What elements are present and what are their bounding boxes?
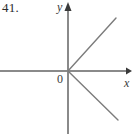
coordinate-plot [0, 0, 134, 137]
origin-label: 0 [57, 73, 63, 85]
x-axis-arrowhead-icon [126, 68, 132, 75]
ray-lower [68, 71, 118, 120]
y-axis-label: y [57, 1, 62, 13]
x-axis-label: x [124, 77, 129, 89]
figure-canvas: 41. y x 0 [0, 0, 134, 137]
y-axis-arrowhead-icon [65, 2, 72, 11]
ray-upper [68, 18, 116, 71]
